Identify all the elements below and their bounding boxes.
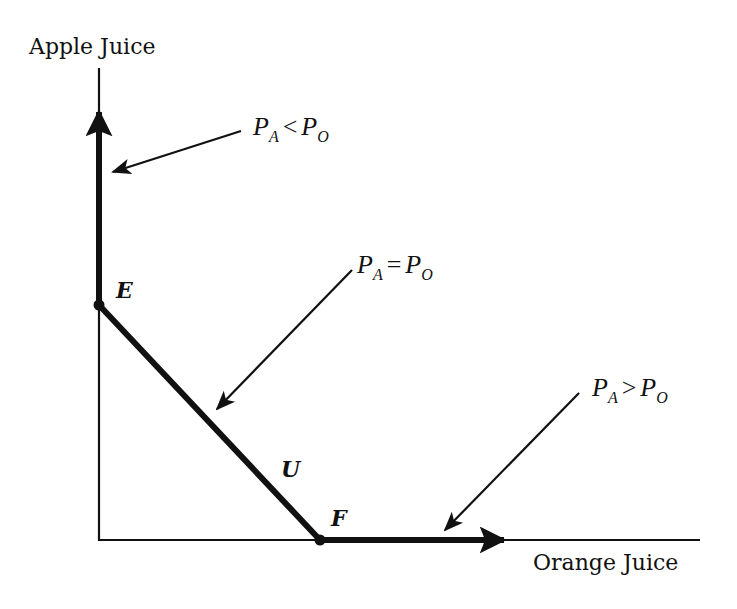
budget-line-segment (99, 305, 320, 540)
point-f-label: F (331, 505, 347, 531)
diagram-canvas (0, 0, 737, 609)
annotation-pa-lt-po: PA<PO (253, 112, 329, 146)
point-e-label: E (116, 277, 133, 303)
annotation-pa-gt-po: PA>PO (592, 373, 668, 407)
pointer-arrow-pa-eq-po (217, 270, 352, 409)
pointer-arrow-pa-gt-po (445, 393, 579, 530)
x-axis-label: Orange Juice (533, 550, 678, 575)
y-axis-label: Apple Juice (29, 34, 155, 59)
annotation-pa-eq-po: PA=PO (357, 250, 433, 284)
pointer-arrow-pa-lt-po (113, 131, 241, 172)
point-u-label: U (281, 456, 300, 482)
point-e-dot (94, 300, 105, 311)
point-f-dot (315, 535, 326, 546)
